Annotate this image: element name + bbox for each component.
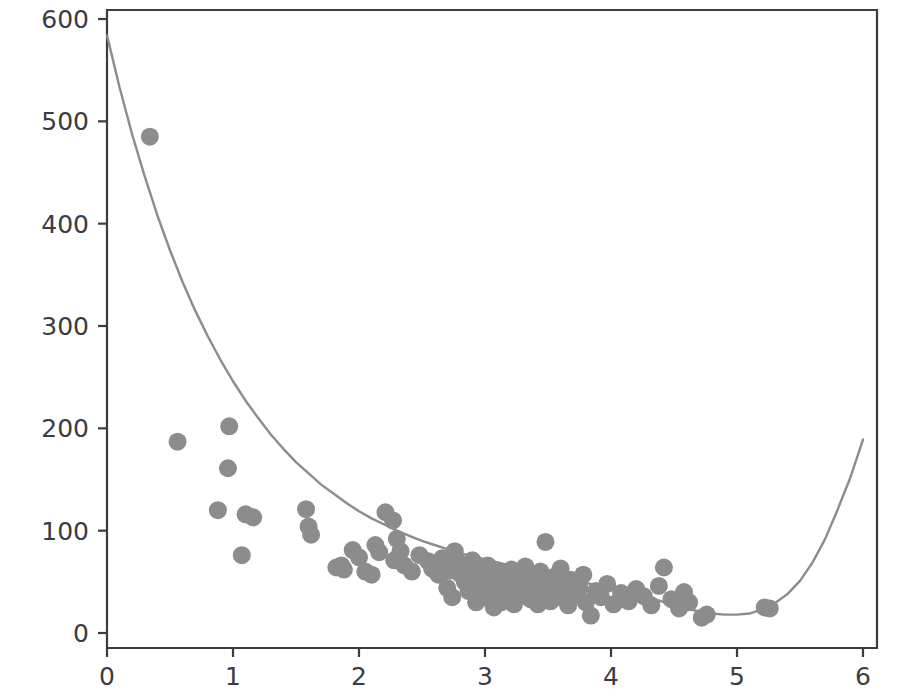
x-tick-label: 5 — [729, 662, 745, 691]
y-tick-label: 300 — [41, 312, 89, 341]
x-tick-label: 3 — [477, 662, 493, 691]
data-point — [384, 511, 402, 529]
data-point — [141, 128, 159, 146]
data-point — [443, 588, 461, 606]
data-point — [698, 606, 716, 624]
data-point — [335, 561, 353, 579]
data-point — [536, 533, 554, 551]
y-tick-label: 100 — [41, 517, 89, 546]
data-point — [761, 599, 779, 617]
data-point — [582, 607, 600, 625]
y-tick-label: 400 — [41, 210, 89, 239]
data-point — [650, 577, 668, 595]
data-point — [363, 566, 381, 584]
data-point — [302, 526, 320, 544]
x-tick-label: 2 — [351, 662, 367, 691]
x-tick-label: 0 — [99, 662, 115, 691]
data-point — [244, 508, 262, 526]
y-tick-label: 200 — [41, 414, 89, 443]
data-point — [169, 433, 187, 451]
data-point — [209, 501, 227, 519]
data-point — [219, 459, 237, 477]
data-point — [297, 500, 315, 518]
x-tick-label: 1 — [225, 662, 241, 691]
x-tick-label: 6 — [855, 662, 871, 691]
y-tick-label: 0 — [73, 619, 89, 648]
data-point — [370, 543, 388, 561]
y-tick-label: 600 — [41, 5, 89, 34]
data-point — [233, 546, 251, 564]
data-point — [655, 559, 673, 577]
scatter-plot-svg: 0123456 0100200300400500600 — [0, 0, 903, 696]
y-tick-label: 500 — [41, 107, 89, 136]
data-point — [574, 566, 592, 584]
x-tick-label: 4 — [603, 662, 619, 691]
chart-figure: 0123456 0100200300400500600 — [0, 0, 903, 696]
data-point — [680, 593, 698, 611]
data-point — [642, 596, 660, 614]
data-point — [403, 563, 421, 581]
data-point — [220, 417, 238, 435]
